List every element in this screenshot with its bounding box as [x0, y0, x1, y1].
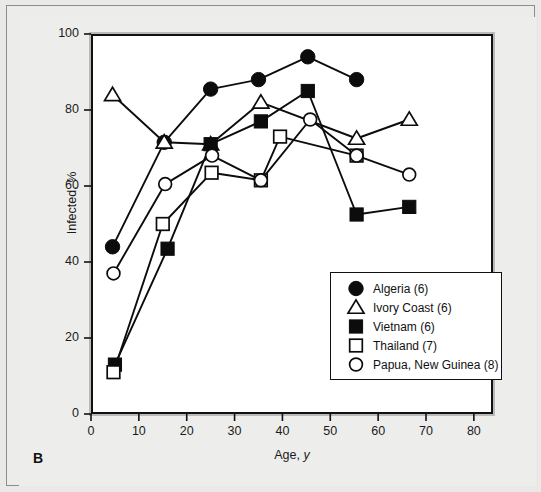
open-triangle-icon — [345, 298, 367, 317]
data-point — [203, 82, 217, 96]
series-line — [113, 57, 357, 247]
chart-canvas — [0, 0, 541, 492]
open-square-glyph — [350, 339, 363, 352]
data-point — [251, 72, 265, 86]
legend-row-papua-new-guinea[interactable]: Papua, New Guinea (8) — [331, 355, 501, 374]
open-circle-icon — [345, 355, 367, 374]
x-tick-label: 60 — [364, 424, 392, 438]
open-triangle-glyph — [348, 300, 364, 313]
data-point — [403, 200, 416, 213]
data-point — [107, 366, 120, 379]
x-tick-label: 30 — [221, 424, 249, 438]
legend-label: Vietnam (6) — [373, 320, 435, 334]
data-point — [304, 113, 317, 126]
data-point — [159, 178, 172, 191]
x-axis-label: Age, y — [91, 448, 493, 462]
data-point — [105, 240, 119, 254]
panel-letter: B — [33, 450, 43, 466]
legend-label: Algeria (6) — [373, 282, 428, 296]
data-point — [205, 166, 218, 179]
filled-circle-glyph — [349, 281, 363, 295]
legend-row-thailand[interactable]: Thailand (7) — [331, 336, 501, 355]
filled-circle-icon — [345, 279, 367, 298]
data-point — [350, 208, 363, 221]
data-point — [254, 174, 267, 187]
figure-panel-b: 01020304050607080 020406080100 Infected,… — [0, 0, 541, 492]
filled-square-icon — [345, 317, 367, 336]
y-tick-label: 20 — [43, 330, 79, 344]
data-point — [349, 131, 365, 144]
legend-row-algeria[interactable]: Algeria (6) — [331, 279, 501, 298]
data-point — [156, 218, 169, 231]
data-point — [301, 84, 314, 97]
open-square-icon — [345, 336, 367, 355]
x-tick-label: 40 — [268, 424, 296, 438]
y-axis-label: Infected, % — [65, 123, 79, 283]
data-point — [350, 149, 363, 162]
data-point — [349, 72, 363, 86]
y-tick-label: 100 — [43, 26, 79, 40]
data-point — [401, 112, 417, 125]
legend-label: Ivory Coast (6) — [373, 301, 452, 315]
data-point — [105, 87, 121, 100]
legend-label: Papua, New Guinea (8) — [373, 358, 498, 372]
legend-label: Thailand (7) — [373, 339, 437, 353]
legend-row-ivory-coast[interactable]: Ivory Coast (6) — [331, 298, 501, 317]
data-point — [301, 50, 315, 64]
y-axis-ticks — [84, 34, 91, 414]
x-tick-label: 20 — [173, 424, 201, 438]
x-tick-label: 80 — [460, 424, 488, 438]
x-tick-label: 0 — [77, 424, 105, 438]
data-point — [107, 267, 120, 280]
legend-row-vietnam[interactable]: Vietnam (6) — [331, 317, 501, 336]
data-point — [254, 115, 267, 128]
x-tick-label: 50 — [316, 424, 344, 438]
data-point — [161, 242, 174, 255]
x-tick-label: 70 — [412, 424, 440, 438]
y-tick-label: 80 — [43, 102, 79, 116]
data-point — [403, 168, 416, 181]
data-point — [206, 149, 219, 162]
data-point — [253, 95, 269, 108]
legend: Algeria (6)Ivory Coast (6)Vietnam (6)Tha… — [330, 272, 502, 380]
y-tick-label: 0 — [43, 406, 79, 420]
filled-square-glyph — [349, 320, 362, 333]
scanned-page: 01020304050607080 020406080100 Infected,… — [0, 0, 541, 492]
x-tick-label: 10 — [125, 424, 153, 438]
x-axis-label-unit: y — [303, 448, 309, 462]
x-axis-ticks — [91, 414, 474, 421]
open-circle-glyph — [350, 358, 363, 371]
data-point — [274, 130, 287, 143]
x-axis-label-prefix: Age, — [274, 448, 303, 462]
